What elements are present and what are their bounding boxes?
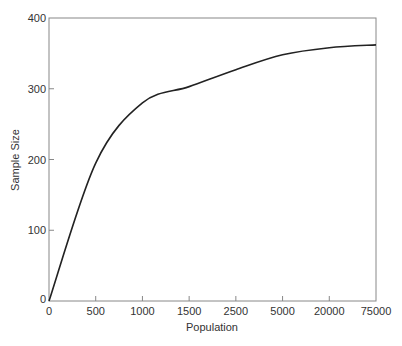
y-axis-title: Sample Size xyxy=(9,129,21,191)
x-tick-label: 1500 xyxy=(177,305,201,317)
x-tick-label: 1000 xyxy=(130,305,154,317)
sample-size-chart: 0100200300400 05001000150025005000200007… xyxy=(0,0,402,346)
x-tick-label: 500 xyxy=(87,305,105,317)
x-axis-ticks: 050010001500250050002000075000 xyxy=(46,296,391,317)
x-axis-title: Population xyxy=(186,321,238,333)
sample-size-curve xyxy=(49,45,376,301)
x-tick-label: 75000 xyxy=(361,305,392,317)
y-tick-label: 100 xyxy=(28,224,46,236)
y-tick-label: 300 xyxy=(28,83,46,95)
y-tick-label: 200 xyxy=(28,154,46,166)
y-tick-label: 0 xyxy=(40,293,46,305)
y-tick-label: 400 xyxy=(28,12,46,24)
x-tick-label: 0 xyxy=(46,305,52,317)
y-axis-ticks: 0100200300400 xyxy=(28,12,54,305)
x-tick-label: 2500 xyxy=(224,305,248,317)
x-tick-label: 5000 xyxy=(270,305,294,317)
x-tick-label: 20000 xyxy=(314,305,345,317)
